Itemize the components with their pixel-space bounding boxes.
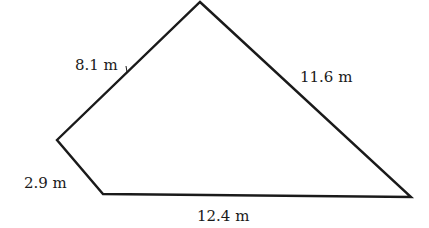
diagram-canvas: 8.1 m 11.6 m 2.9 m 12.4 m <box>0 0 429 228</box>
label-tick-mark <box>126 66 127 72</box>
side-label-short-left: 2.9 m <box>24 174 67 192</box>
side-label-top-right: 11.6 m <box>300 68 352 86</box>
quadrilateral-figure: 8.1 m 11.6 m 2.9 m 12.4 m <box>0 0 429 228</box>
side-label-bottom: 12.4 m <box>197 207 249 225</box>
side-label-top-left: 8.1 m <box>75 56 118 74</box>
quadrilateral-outline <box>57 2 411 197</box>
